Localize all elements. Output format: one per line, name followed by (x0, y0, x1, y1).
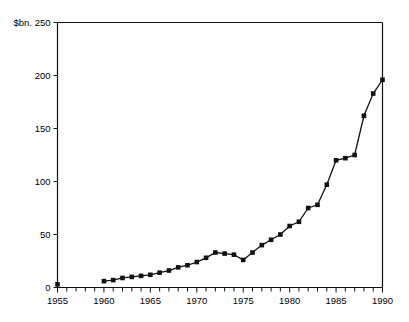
data-point-1973 (222, 251, 227, 256)
data-point-1981 (297, 219, 302, 224)
y-tick-label-150: 150 (35, 123, 51, 134)
line-chart: 050100150200$bn. 25019551960196519701975… (0, 0, 409, 322)
series-line-1 (104, 80, 383, 281)
data-point-1986 (343, 156, 348, 161)
data-point-1961 (111, 278, 116, 283)
data-point-1978 (269, 238, 274, 243)
data-point-1975 (241, 258, 246, 263)
y-tick-label-50: 50 (40, 229, 51, 240)
data-point-1987 (352, 153, 357, 158)
data-point-1988 (362, 113, 367, 118)
x-tick-label-1955: 1955 (47, 295, 68, 306)
data-point-1984 (324, 182, 329, 187)
data-point-1966 (157, 270, 162, 275)
data-point-1969 (185, 263, 190, 268)
data-point-1980 (287, 224, 292, 229)
data-point-1965 (148, 272, 153, 277)
y-tick-label-100: 100 (35, 176, 51, 187)
x-tick-label-1980: 1980 (279, 295, 300, 306)
x-tick-label-1965: 1965 (140, 295, 161, 306)
data-point-1989 (371, 91, 376, 96)
data-point-1990 (380, 77, 385, 82)
y-tick-label-0: 0 (45, 282, 50, 293)
data-point-1970 (194, 260, 199, 265)
data-point-1955 (55, 282, 60, 287)
data-point-1964 (139, 274, 144, 279)
x-tick-label-1990: 1990 (372, 295, 393, 306)
data-point-1983 (315, 203, 320, 208)
y-tick-label-250: $bn. 250 (14, 17, 51, 28)
chart-container: 050100150200$bn. 25019551960196519701975… (0, 0, 409, 322)
data-point-1974 (232, 252, 237, 257)
data-point-1972 (213, 250, 218, 255)
data-point-1968 (176, 265, 181, 270)
data-point-1979 (278, 232, 283, 237)
data-point-1967 (167, 268, 172, 273)
x-tick-label-1970: 1970 (186, 295, 207, 306)
x-tick-label-1985: 1985 (326, 295, 347, 306)
data-point-1976 (250, 250, 255, 255)
data-point-1962 (120, 276, 125, 281)
x-tick-label-1960: 1960 (93, 295, 114, 306)
x-tick-label-1975: 1975 (233, 295, 254, 306)
data-point-1960 (102, 279, 107, 284)
data-point-1971 (204, 256, 209, 261)
data-point-1982 (306, 206, 311, 211)
y-tick-label-200: 200 (35, 70, 51, 81)
data-point-1963 (129, 275, 134, 280)
data-point-1977 (259, 243, 264, 248)
data-point-1985 (334, 158, 339, 163)
